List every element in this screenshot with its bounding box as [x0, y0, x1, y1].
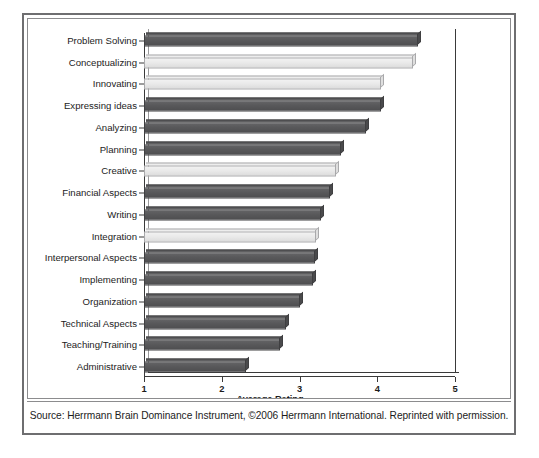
bar-integration — [144, 231, 316, 242]
category-label: Innovating — [93, 80, 137, 90]
bar-interpersonal-aspects — [144, 253, 315, 264]
bar-analyzing — [144, 122, 366, 133]
bar-financial-aspects — [144, 188, 330, 199]
x-axis-tick — [222, 377, 223, 382]
bar-front-face — [144, 79, 381, 90]
bar-front-face — [144, 275, 313, 286]
x-axis-tick — [144, 377, 145, 382]
bar-writing — [144, 209, 321, 220]
category-label: Technical Aspects — [61, 319, 137, 329]
bar-front-face — [144, 296, 300, 307]
category-label: Planning — [100, 145, 137, 155]
source-note-band: Source: Herrmann Brain Dominance Instrum… — [27, 401, 511, 428]
bar-innovating — [144, 79, 381, 90]
bar-administrative — [144, 362, 246, 373]
bar-problem-solving — [144, 36, 418, 47]
bar-front-face — [144, 340, 280, 351]
x-axis-tick-label: 3 — [297, 384, 302, 393]
x-axis-tick-label: 5 — [452, 384, 457, 393]
x-axis-tick — [455, 377, 456, 382]
category-label: Expressing ideas — [64, 101, 137, 111]
source-note: Source: Herrmann Brain Dominance Instrum… — [30, 410, 509, 421]
bar-front-face — [144, 166, 336, 177]
category-label: Creative — [101, 167, 137, 177]
category-label: Problem Solving — [67, 36, 137, 46]
bar-front-face — [144, 57, 413, 68]
category-label: Organization — [83, 297, 137, 307]
category-label: Integration — [92, 232, 137, 242]
x-axis-tick-label: 1 — [141, 384, 146, 393]
bar-technical-aspects — [144, 318, 286, 329]
bar-front-face — [144, 362, 246, 373]
bar-front-face — [144, 188, 330, 199]
right-axis-line — [455, 29, 456, 372]
x-axis-tick-label: 4 — [375, 384, 380, 393]
bar-organization — [144, 296, 300, 307]
bar-front-face — [144, 101, 381, 112]
x-axis-tick — [377, 377, 378, 382]
bar-front-face — [144, 36, 418, 47]
bar-front-face — [144, 231, 316, 242]
category-label: Analyzing — [95, 123, 137, 133]
x-axis-tick — [300, 377, 301, 382]
bar-creative — [144, 166, 336, 177]
category-label: Financial Aspects — [62, 188, 137, 198]
bar-front-face — [144, 318, 286, 329]
chart-figure: Problem SolvingConceptualizingInnovating… — [22, 13, 516, 435]
plot-area: Problem SolvingConceptualizingInnovating… — [28, 19, 511, 399]
bar-expressing-ideas — [144, 101, 381, 112]
x-axis-title: Average Rating — [28, 395, 511, 399]
bar-planning — [144, 144, 341, 155]
bar-front-face — [144, 144, 341, 155]
category-label: Implementing — [79, 275, 137, 285]
plot-panel: Problem SolvingConceptualizingInnovating… — [27, 18, 511, 399]
x-axis-tick-label: 2 — [219, 384, 224, 393]
bar-implementing — [144, 275, 313, 286]
bar-front-face — [144, 209, 321, 220]
category-label: Administrative — [77, 362, 137, 372]
bar-front-face — [144, 253, 315, 264]
category-label: Teaching/Training — [62, 340, 137, 350]
category-label: Conceptualizing — [69, 58, 137, 68]
bar-front-face — [144, 122, 366, 133]
category-label: Writing — [107, 210, 137, 220]
category-label: Interpersonal Aspects — [45, 254, 137, 264]
bar-teaching-training — [144, 340, 280, 351]
bar-conceptualizing — [144, 57, 413, 68]
